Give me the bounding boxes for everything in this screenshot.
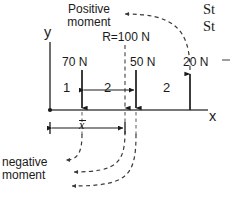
negative-moment-line1: negative xyxy=(2,156,70,169)
xbar-dimension xyxy=(50,122,125,134)
negative-moment-label: negative moment xyxy=(2,156,70,181)
xbar-overline xyxy=(79,120,86,121)
negative-moment-line2: moment xyxy=(2,169,70,182)
axis-lines xyxy=(48,42,208,112)
side-note-2: St xyxy=(203,19,215,34)
dim-2b-label: 2 xyxy=(163,81,170,95)
dim-2a-label: 2 xyxy=(104,81,111,95)
positive-moment-line2: moment xyxy=(58,16,120,29)
y-axis-label: y xyxy=(44,25,51,40)
figure-canvas: Positive moment R=100 N y x 70 N 50 N 20… xyxy=(0,0,230,197)
origin-point xyxy=(48,108,52,112)
positive-moment-label: Positive moment xyxy=(58,3,120,28)
force-70-label: 70 N xyxy=(62,56,87,69)
force-20-label: 20 N xyxy=(183,56,208,69)
side-note-1: St xyxy=(203,2,215,17)
positive-moment-line1: Positive xyxy=(58,3,120,16)
force-50-label: 50 N xyxy=(130,56,155,69)
x-axis-label: x xyxy=(209,109,216,124)
dim-1-label: 1 xyxy=(63,81,70,95)
resultant-label: R=100 N xyxy=(96,31,156,44)
